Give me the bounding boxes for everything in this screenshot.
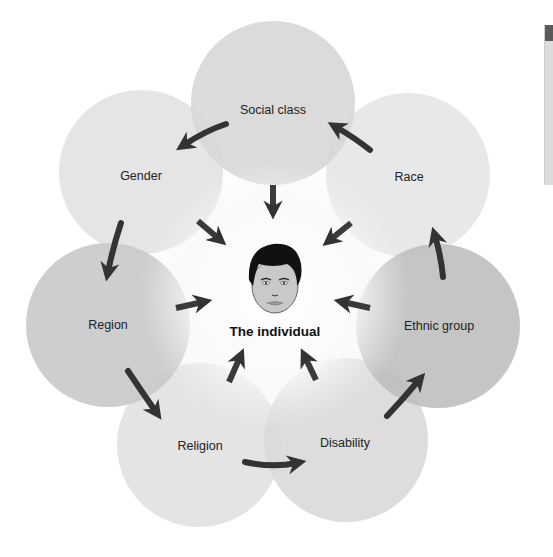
side-panel (544, 25, 553, 185)
label-ethnic-group: Ethnic group (404, 319, 474, 333)
label-the-individual: The individual (230, 324, 321, 339)
label-race: Race (394, 170, 423, 184)
face-icon (249, 244, 302, 313)
side-panel-header (545, 25, 553, 41)
arrow-religion-to-disability (245, 462, 297, 465)
label-region: Region (88, 318, 128, 332)
label-gender: Gender (120, 169, 162, 183)
label-social-class: Social class (240, 103, 306, 117)
label-religion: Religion (177, 439, 222, 453)
label-disability: Disability (320, 436, 370, 450)
